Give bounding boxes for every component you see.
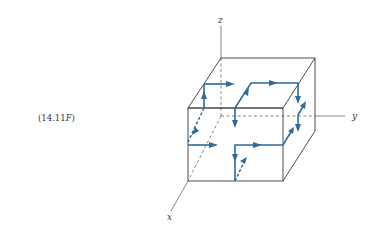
arrow-down-icon: [295, 124, 301, 132]
z-axis-label: z: [217, 15, 223, 25]
cube-circulation-diagram: (14.11F) z y x: [0, 0, 377, 230]
cube-edges: [188, 58, 315, 181]
arrow-right-icon: [269, 80, 278, 86]
path-top-right: [235, 83, 298, 108]
arrow-right-icon: [226, 81, 235, 87]
x-axis: [171, 181, 188, 211]
y-axis-label: y: [351, 111, 358, 121]
hidden-edges: [188, 58, 315, 181]
equation-label: (14.11F): [38, 113, 75, 123]
arrow-up-icon: [201, 91, 207, 99]
arrow-down-icon: [295, 96, 301, 104]
x-axis-label: x: [167, 212, 172, 222]
path-bottom-dashed: [235, 160, 245, 181]
path-front-lower: [235, 145, 283, 181]
arrow-down-icon: [232, 154, 238, 162]
arrow-diag-up-icon: [240, 157, 247, 164]
arrowheads: [192, 80, 306, 164]
path-left-dashed: [188, 108, 204, 142]
arrow-down-icon: [232, 120, 238, 128]
hidden-edge-x: [188, 116, 221, 181]
right-face-edges: [283, 58, 315, 181]
arrow-right-icon: [209, 142, 218, 148]
arrow-right-icon: [253, 142, 262, 148]
